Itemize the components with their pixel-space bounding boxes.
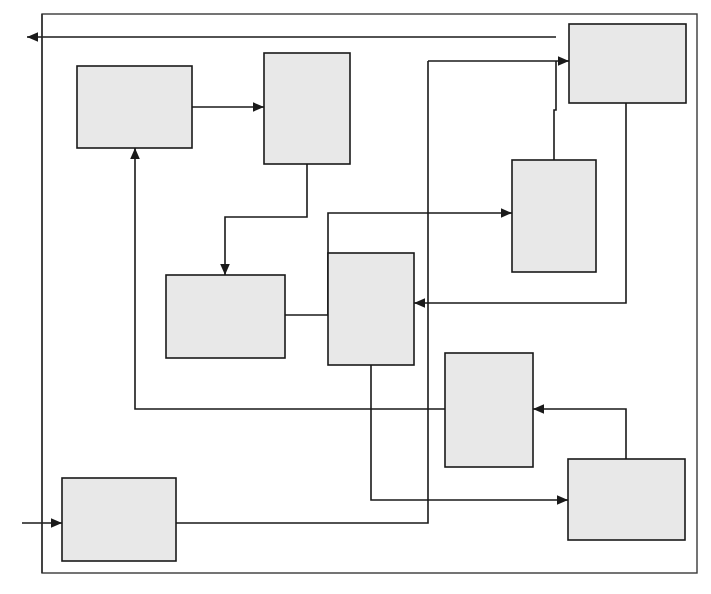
block-group-6[interactable] [328,253,414,365]
connector-block2-to-block5 [225,164,307,275]
block-group-1[interactable] [77,66,192,148]
block-diagram [0,0,711,594]
block-7[interactable] [445,353,533,467]
block-group-3[interactable] [569,24,686,103]
arrowhead-loop-to-block3 [558,56,569,66]
arrowhead-block6-to-block4 [501,208,512,218]
block-3[interactable] [569,24,686,103]
block-group-7[interactable] [445,353,533,467]
figure-canvas [0,0,711,594]
arrowhead-block6-to-block8 [557,495,568,505]
arrowhead-block8-to-block7 [533,404,544,414]
arrowhead-system-output [27,32,38,42]
connector-block8-to-block7 [533,409,626,459]
block-8[interactable] [568,459,685,540]
arrowhead-block3-to-block6 [414,298,425,308]
block-2[interactable] [264,53,350,164]
block-4[interactable] [512,160,596,272]
block-9[interactable] [62,478,176,561]
arrowhead-block1-to-block2 [253,102,264,112]
block-group-2[interactable] [264,53,350,164]
arrowhead-system-input [51,518,62,528]
block-group-4[interactable] [512,160,596,272]
block-5[interactable] [166,275,285,358]
arrowhead-block7-to-block1 [130,148,140,159]
block-group-8[interactable] [568,459,685,540]
block-6[interactable] [328,253,414,365]
block-group-9[interactable] [62,478,176,561]
block-1[interactable] [77,66,192,148]
block-group-5[interactable] [166,275,285,358]
arrowhead-block2-to-block5 [220,264,230,275]
connector-block4-to-block3 [554,61,556,160]
